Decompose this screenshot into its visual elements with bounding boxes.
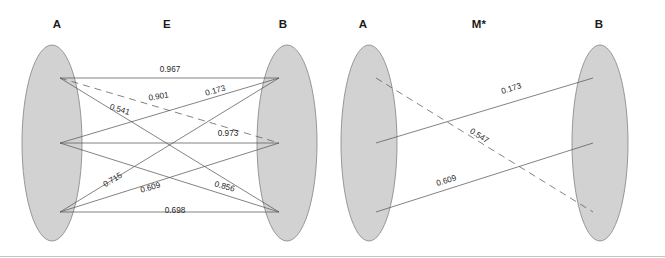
panel-e-right-set-label: B: [279, 18, 287, 30]
edge-weight-a2-b1-mstar: 0.173: [500, 81, 523, 96]
edge-weight-a3-b3-e: 0.698: [165, 206, 186, 215]
panel-e-title: E: [163, 18, 171, 30]
edge-a3-b2-mstar: [376, 143, 593, 212]
panel-mstar: A M* B 0.547 0.173 0.609: [341, 18, 628, 241]
edge-a1-b3-mstar: [376, 78, 593, 212]
panel-mstar-left-set-label: A: [359, 18, 367, 30]
edge-weight-a2-b1-e: 0.901: [148, 90, 170, 102]
edge-weight-a1-b3-mstar: 0.547: [468, 127, 491, 146]
edge-weight-a1-b3-e: 0.856: [214, 180, 237, 194]
panel-mstar-title: M*: [472, 18, 487, 30]
edge-weight-a3-b1-e: 0.715: [102, 170, 125, 188]
edge-weight-a1-b1-e: 0.967: [160, 65, 181, 74]
set-a-ellipse-mstar: [341, 45, 397, 241]
bipartite-matching-figure: A E B 0.967 0.541 0.856 0.901 0.973 0.71…: [0, 0, 665, 258]
set-b-ellipse-mstar: [572, 45, 628, 241]
edge-weight-a2-b2-e: 0.973: [218, 129, 239, 138]
edge-weight-a2-b3-e: 0.173: [204, 83, 227, 97]
panel-mstar-right-set-label: B: [595, 18, 603, 30]
edge-weight-a3-b2-e: 0.609: [139, 180, 162, 194]
panel-e-left-set-label: A: [53, 18, 61, 30]
panel-e: A E B 0.967 0.541 0.856 0.901 0.973 0.71…: [22, 18, 317, 241]
edge-weight-a3-b2-mstar: 0.609: [435, 173, 458, 188]
